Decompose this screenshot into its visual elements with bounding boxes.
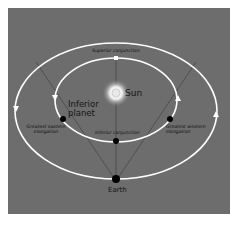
arrow-down-icon	[13, 106, 19, 112]
tangent-line-east	[36, 62, 116, 181]
tangent-line-west	[116, 62, 196, 181]
earth-icon	[112, 175, 120, 183]
arrow-up-icon	[213, 111, 219, 117]
inferior-conjunction-planet	[113, 138, 119, 144]
arrow-up-icon	[175, 95, 181, 101]
superior-conjunction-label: Superior conjunction	[92, 48, 140, 53]
inferior-conjunction-label: Inferior conjunction	[95, 130, 140, 135]
greatest-western-elongation-label: Greatest western elongation	[166, 124, 206, 134]
sun-icon	[112, 89, 120, 97]
sun-label: Sun	[125, 88, 142, 98]
arrow-down-icon	[52, 95, 58, 101]
western-elongation-planet	[167, 116, 173, 122]
inferior-planet-label: Inferior planet	[68, 100, 102, 118]
eastern-elongation-planet	[60, 116, 66, 122]
earth-label: Earth	[108, 186, 127, 194]
superior-conjunction-marker	[114, 56, 118, 60]
greatest-eastern-elongation-label: Greatest eastern elongation	[26, 124, 66, 134]
